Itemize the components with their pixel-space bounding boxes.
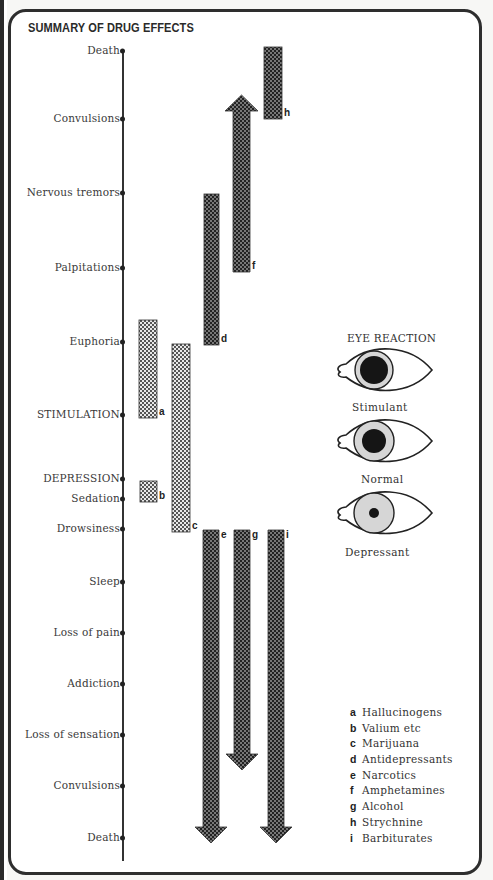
eye-caption-depressant: Depressant bbox=[345, 546, 410, 558]
legend-item-narcotics: eNarcotics bbox=[350, 769, 453, 785]
drug-bar-d bbox=[204, 194, 219, 345]
legend-item-marijuana: cMarijuana bbox=[350, 737, 453, 753]
bar-label-d: d bbox=[221, 333, 227, 344]
eye-icon-depressant bbox=[338, 492, 432, 534]
bar-label-e: e bbox=[221, 529, 227, 540]
eye-reaction-illustrations bbox=[338, 349, 432, 534]
drug-bar-b bbox=[140, 481, 157, 502]
eye-icon-stimulant bbox=[338, 349, 432, 391]
eye-caption-normal: Normal bbox=[361, 473, 404, 485]
drug-bar-h bbox=[264, 47, 282, 119]
bar-label-i: i bbox=[286, 529, 289, 540]
legend-item-strychnine: hStrychnine bbox=[350, 816, 453, 832]
bar-label-g: g bbox=[252, 529, 258, 540]
bar-label-b: b bbox=[159, 490, 165, 501]
legend-item-alcohol: gAlcohol bbox=[350, 800, 453, 816]
drug-bar-f bbox=[225, 95, 258, 272]
bar-label-c: c bbox=[192, 520, 198, 531]
drug-bar-g bbox=[226, 530, 258, 770]
bar-label-h: h bbox=[284, 107, 290, 118]
legend-item-antidepressants: dAntidepressants bbox=[350, 753, 453, 769]
eye-icon-normal bbox=[338, 420, 432, 462]
drug-bar-i bbox=[260, 530, 292, 843]
legend-item-amphetamines: fAmphetamines bbox=[350, 784, 453, 800]
drug-bar-a bbox=[139, 320, 157, 418]
bar-label-a: a bbox=[159, 406, 165, 417]
legend-item-valium: bValium etc bbox=[350, 722, 453, 738]
drug-bar-c bbox=[172, 344, 190, 532]
drug-legend: aHallucinogens bValium etc cMarijuana dA… bbox=[350, 706, 453, 847]
legend-item-hallucinogens: aHallucinogens bbox=[350, 706, 453, 722]
eye-reaction-title: EYE REACTION bbox=[347, 332, 436, 344]
eye-caption-stimulant: Stimulant bbox=[352, 401, 408, 413]
legend-item-barbiturates: iBarbiturates bbox=[350, 832, 453, 848]
bar-label-f: f bbox=[252, 260, 255, 271]
drug-bar-e bbox=[195, 530, 227, 843]
